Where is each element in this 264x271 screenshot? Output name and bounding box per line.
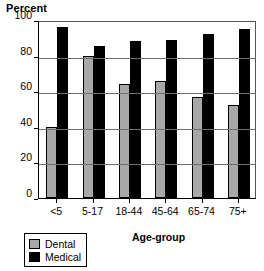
y-tick-mark: [34, 163, 38, 164]
bar-medical-0: [57, 27, 68, 198]
x-tick-mark: [238, 199, 239, 203]
x-tick-label: 75+: [215, 205, 261, 217]
y-tick-label: 80: [4, 45, 32, 57]
x-tick-mark: [56, 199, 57, 203]
gridline: [39, 58, 255, 59]
legend-label-medical: Medical: [45, 252, 81, 262]
bar-medical-1: [94, 46, 105, 198]
bar-medical-3: [166, 40, 177, 198]
bar-dental-4: [192, 97, 203, 198]
gridline: [39, 129, 255, 130]
y-tick-mark: [34, 21, 38, 22]
bar-chart: Percent 020406080100 <55-1718-4445-6465-…: [0, 0, 264, 271]
y-tick-label: 100: [4, 9, 32, 21]
bar-dental-2: [119, 84, 130, 198]
legend-swatch-dental: [29, 239, 40, 249]
y-tick-mark: [34, 57, 38, 58]
bar-dental-0: [46, 127, 57, 198]
x-axis-title: Age-group: [132, 231, 185, 243]
y-tick-label: 60: [4, 80, 32, 92]
bar-dental-3: [155, 81, 166, 198]
gridline: [39, 164, 255, 165]
bar-medical-4: [203, 34, 214, 198]
x-tick-mark: [129, 199, 130, 203]
y-tick-mark: [34, 92, 38, 93]
x-tick-mark: [165, 199, 166, 203]
bar-medical-5: [239, 29, 250, 198]
plot-area: [38, 21, 256, 199]
bar-dental-5: [228, 105, 239, 198]
y-tick-label: 0: [4, 187, 32, 199]
legend-item-medical: Medical: [29, 250, 81, 263]
x-tick-mark: [93, 199, 94, 203]
legend: Dental Medical: [24, 233, 87, 267]
legend-item-dental: Dental: [29, 237, 81, 250]
bars-container: [39, 22, 255, 198]
bar-dental-1: [83, 56, 94, 198]
legend-swatch-medical: [29, 252, 40, 262]
y-tick-label: 40: [4, 116, 32, 128]
y-tick-mark: [34, 128, 38, 129]
y-tick-mark: [34, 199, 38, 200]
bar-medical-2: [130, 41, 141, 198]
gridline: [39, 93, 255, 94]
x-tick-mark: [202, 199, 203, 203]
legend-label-dental: Dental: [45, 239, 75, 249]
y-tick-label: 20: [4, 151, 32, 163]
